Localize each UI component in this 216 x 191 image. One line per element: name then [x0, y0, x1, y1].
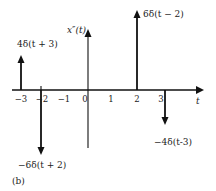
impulse-label: 4δ(t + 3) — [17, 39, 58, 49]
tick-label: 0 — [82, 94, 87, 104]
tick-label: 1 — [108, 94, 113, 104]
tick-label: −2 — [36, 94, 49, 104]
impulse-label: −6δ(t + 2) — [18, 160, 66, 170]
impulse-diagram: −3 −2 −1 0 1 2 3 t x″(t) 4δ(t + 3) −6δ(t… — [0, 0, 216, 191]
impulse-t-plus-2 — [134, 10, 141, 90]
down-arrow-icon — [162, 117, 169, 125]
tick-label: 2 — [134, 94, 139, 104]
up-arrow-icon — [18, 55, 25, 63]
t-axis-arrow-icon — [196, 86, 204, 94]
tick-label: −3 — [15, 94, 28, 104]
tick-label: 3 — [158, 94, 163, 104]
up-arrow-icon — [134, 10, 141, 18]
y-axis — [85, 29, 92, 148]
impulse-label: −4δ(t-3) — [154, 137, 192, 147]
tick-label: −1 — [58, 94, 71, 104]
impulse-label: 6δ(t − 2) — [143, 9, 184, 19]
y-axis-label: x″(t) — [67, 25, 87, 35]
down-arrow-icon — [38, 147, 45, 155]
x-axis-label: t — [196, 96, 200, 106]
tick-labels: −3 −2 −1 0 1 2 3 — [15, 94, 164, 104]
impulse-t-minus-3 — [18, 55, 25, 90]
figure-caption: (b) — [12, 176, 25, 186]
